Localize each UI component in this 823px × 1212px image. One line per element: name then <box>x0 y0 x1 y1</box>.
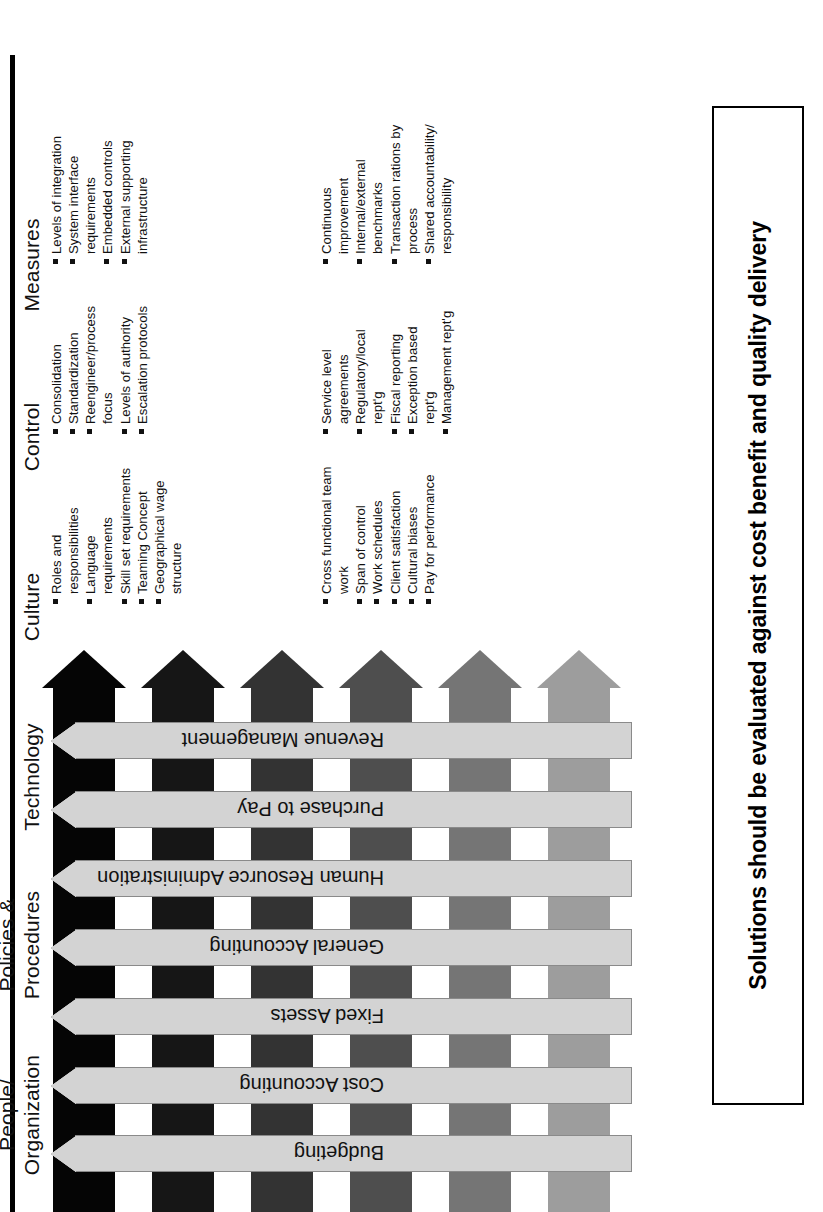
square-bullet-icon <box>139 429 144 434</box>
bullet-list: Levels of integration System interface r… <box>48 124 151 264</box>
list-item-label: Geographical wage structure <box>152 480 184 594</box>
list-item-label: Standardization <box>66 332 81 424</box>
process-label: Fixed Assets <box>347 1004 384 1027</box>
bullet-list: Continuous improvement Internal/external… <box>318 124 455 264</box>
list-item-label: Continuous improvement <box>319 178 351 254</box>
list-item: Reengineer/process focus <box>82 294 116 434</box>
list-item-label: Escalation protocols <box>135 306 150 424</box>
list-item-label: Shared accountability/ responsibility <box>422 124 454 254</box>
square-bullet-icon <box>122 429 127 434</box>
list-item: System interface requirements <box>65 124 99 264</box>
column-heading-control: Control <box>20 362 45 512</box>
bullet-list: Consolidation Standardization Reengineer… <box>48 294 151 434</box>
square-bullet-icon <box>70 259 75 264</box>
list-item: Embedded controls <box>99 124 116 264</box>
bullet-list-control: Service level agreements Regulatory/loca… <box>318 294 455 434</box>
bullet-list-culture: Cross functional team work Span of contr… <box>318 464 438 604</box>
square-bullet-icon <box>409 599 414 604</box>
list-item-label: Skill set requirements <box>118 468 133 594</box>
list-item: Skill set requirements <box>117 464 134 604</box>
list-item: Transaction rations by process <box>387 124 421 264</box>
process-arrow-budgeting: Budgeting <box>75 1135 632 1172</box>
process-arrow-fixed-assets: Fixed Assets <box>75 998 632 1035</box>
process-label: Purchase to Pay <box>347 797 384 820</box>
square-bullet-icon <box>87 599 92 604</box>
process-arrowhead <box>51 930 76 966</box>
list-item-label: Teaming Concept <box>135 491 150 594</box>
process-label: Budgeting <box>347 1141 384 1164</box>
process-label: Cost Accounting <box>347 1073 384 1096</box>
bullet-list: Roles and responsibilities Language requ… <box>48 464 185 604</box>
square-bullet-icon <box>392 429 397 434</box>
process-arrowhead <box>51 861 76 897</box>
diagram-canvas: People/ Organization Policies & Procedur… <box>0 0 823 1212</box>
list-item-label: Roles and responsibilities <box>49 508 81 595</box>
band-arrowhead <box>141 650 225 688</box>
list-item: Geographical wage structure <box>151 464 185 604</box>
process-arrow-purchase-to-pay: Purchase to Pay <box>75 791 632 828</box>
square-bullet-icon <box>374 599 379 604</box>
list-item: Shared accountability/ responsibility <box>421 124 455 264</box>
process-arrowhead <box>51 723 76 759</box>
band-arrowhead <box>240 650 324 688</box>
list-item-label: Regulatory/local rept'g <box>353 329 385 424</box>
list-item-label: Client satisfaction <box>388 491 403 594</box>
caption-text: Solutions should be evaluated against co… <box>745 221 772 990</box>
square-bullet-icon <box>53 429 58 434</box>
process-label: General Accounting <box>347 935 384 958</box>
column-heading-measures: Measures <box>20 190 45 340</box>
square-bullet-icon <box>357 259 362 264</box>
list-item: Internal/external benchmarks <box>352 124 386 264</box>
square-bullet-icon <box>104 259 109 264</box>
header-rule <box>10 55 15 1212</box>
bullet-list-measures: Continuous improvement Internal/external… <box>318 124 455 264</box>
column-heading-people-organization: People/ Organization <box>0 1040 45 1190</box>
list-item-label: Service level agreements <box>319 349 351 424</box>
process-arrow-revenue-management: Revenue Management <box>75 722 632 759</box>
process-arrow-human-resource-administration: Human Resource Administration <box>75 860 632 897</box>
list-item: Teaming Concept <box>134 464 151 604</box>
list-item: Levels of authority <box>117 294 134 434</box>
list-item: Exception based rept'g <box>404 294 438 434</box>
list-item: Service level agreements <box>318 294 352 434</box>
square-bullet-icon <box>392 259 397 264</box>
square-bullet-icon <box>139 599 144 604</box>
column-heading-technology: Technology <box>20 702 45 852</box>
square-bullet-icon <box>357 599 362 604</box>
bullet-list-technology: Levels of integration System interface r… <box>48 124 151 264</box>
list-item-label: Cultural biases <box>405 507 420 594</box>
square-bullet-icon <box>53 599 58 604</box>
process-arrow-cost-accounting: Cost Accounting <box>75 1067 632 1104</box>
square-bullet-icon <box>323 429 328 434</box>
list-item-label: Management rept'g <box>439 311 454 424</box>
list-item: Regulatory/local rept'g <box>352 294 386 434</box>
bullet-list-people-organization: Roles and responsibilities Language requ… <box>48 464 185 604</box>
list-item: Work schedules <box>369 464 386 604</box>
square-bullet-icon <box>426 599 431 604</box>
list-item-label: Levels of integration <box>49 136 64 254</box>
list-item: Cross functional team work <box>318 464 352 604</box>
bullet-list: Service level agreements Regulatory/loca… <box>318 294 455 434</box>
list-item: Pay for performance <box>421 464 438 604</box>
list-item: Cultural biases <box>404 464 421 604</box>
list-item: Client satisfaction <box>387 464 404 604</box>
list-item: Roles and responsibilities <box>48 464 82 604</box>
process-label: Human Resource Administration <box>347 866 384 889</box>
column-heading-policies-procedures: Policies & Procedures <box>0 870 45 1020</box>
square-bullet-icon <box>87 429 92 434</box>
list-item-label: Embedded controls <box>100 140 115 254</box>
process-arrow-general-accounting: General Accounting <box>75 929 632 966</box>
square-bullet-icon <box>156 599 161 604</box>
list-item: Levels of integration <box>48 124 65 264</box>
list-item-label: Span of control <box>353 505 368 594</box>
process-arrowhead <box>51 999 76 1035</box>
process-label: Revenue Management <box>347 728 384 751</box>
list-item: Fiscal reporting <box>387 294 404 434</box>
list-item-label: Consolidation <box>49 344 64 424</box>
caption-box: Solutions should be evaluated against co… <box>712 106 804 1105</box>
square-bullet-icon <box>443 429 448 434</box>
square-bullet-icon <box>53 259 58 264</box>
square-bullet-icon <box>122 259 127 264</box>
list-item: Continuous improvement <box>318 124 352 264</box>
square-bullet-icon <box>323 259 328 264</box>
